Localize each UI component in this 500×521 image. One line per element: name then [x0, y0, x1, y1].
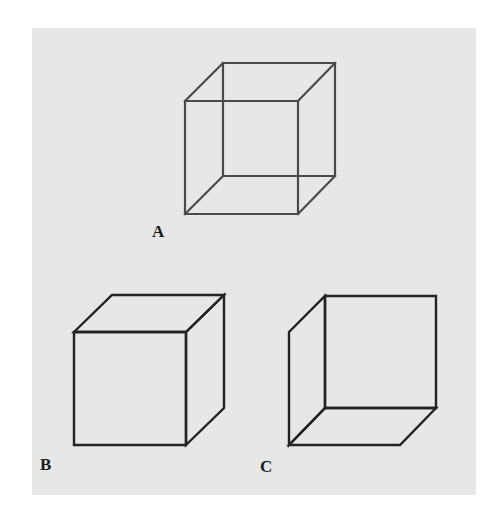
cube-b-top-face [74, 295, 224, 332]
cube-a-top-right-depth-edge [298, 63, 335, 101]
cube-c-bottom-face [289, 408, 436, 445]
cube-c-left-face [289, 296, 325, 445]
cube-b [74, 295, 224, 445]
cube-a-top-left-depth-edge [185, 63, 223, 101]
cube-a-label: A [152, 222, 165, 241]
cube-a-bottom-left-depth-edge [185, 176, 223, 214]
cube-c-front-face [325, 296, 436, 408]
cube-b-label: B [40, 455, 51, 474]
cube-c [289, 296, 436, 445]
necker-cube-figure: A B C [0, 0, 500, 521]
cube-b-right-face [186, 295, 224, 445]
cube-a [185, 63, 335, 214]
cube-c-label: C [260, 457, 272, 476]
cube-b-front-face [74, 332, 186, 445]
cube-a-bottom-right-depth-edge [298, 176, 335, 214]
